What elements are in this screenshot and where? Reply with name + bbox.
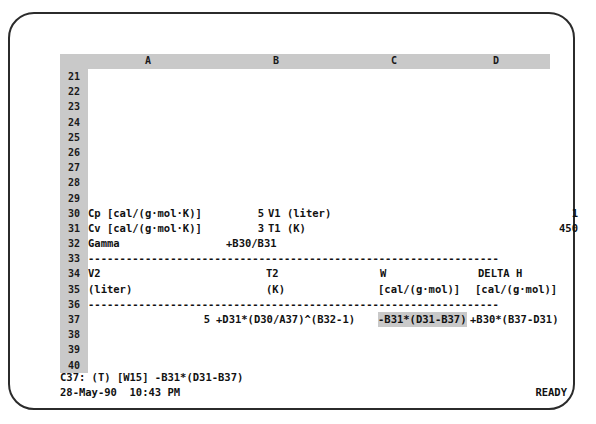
cell-B34[interactable]: T2	[266, 266, 279, 281]
grid-row[interactable]: 31Cv [cal/(g·mol·K)]3T1 (K)450	[60, 221, 550, 236]
grid-row[interactable]: 30Cp [cal/(g·mol·K)]5V1 (liter)1	[60, 206, 550, 221]
grid-row[interactable]: 38	[60, 327, 550, 342]
grid-row[interactable]: 25	[60, 130, 550, 145]
row-header-30[interactable]: 30	[60, 206, 88, 221]
row-header-37[interactable]: 37	[60, 312, 88, 327]
row-cells: (liter)(K)[cal/(g·mol)][cal/(g·mol)]	[88, 282, 550, 297]
row-header-23[interactable]: 23	[60, 99, 88, 114]
row-header-22[interactable]: 22	[60, 84, 88, 99]
grid-row[interactable]: 33--------------------------------------…	[60, 251, 550, 266]
separator-line: ----------------------------------------…	[88, 297, 550, 312]
row-cells	[88, 327, 550, 342]
row-header-34[interactable]: 34	[60, 266, 88, 281]
row-cells	[88, 145, 550, 160]
cell-C37[interactable]: -B31*(D31-B37)	[378, 312, 467, 327]
row-cells: Cp [cal/(g·mol·K)]5V1 (liter)1	[88, 206, 550, 221]
row-cells	[88, 69, 550, 84]
screen-frame: A B C D 21222324252627282930Cp [cal/(g·m…	[8, 12, 575, 410]
row-header-25[interactable]: 25	[60, 130, 88, 145]
row-cells	[88, 342, 550, 357]
cell-B35[interactable]: (K)	[266, 282, 285, 297]
row-cells	[88, 160, 550, 175]
row-cells: ----------------------------------------…	[88, 251, 550, 266]
column-header-bar: A B C D	[60, 54, 550, 69]
row-header-28[interactable]: 28	[60, 175, 88, 190]
cell-C35[interactable]: [cal/(g·mol)]	[378, 282, 460, 297]
column-header-c[interactable]: C	[384, 55, 404, 66]
row-header-32[interactable]: 32	[60, 236, 88, 251]
column-header-a[interactable]: A	[138, 55, 158, 66]
column-header-d[interactable]: D	[486, 55, 506, 66]
row-header-31[interactable]: 31	[60, 221, 88, 236]
cell-D37[interactable]: +B30*(B37-D31)	[470, 312, 559, 327]
grid-row[interactable]: 32Gamma+B30/B31	[60, 236, 550, 251]
grid-row[interactable]: 23	[60, 99, 550, 114]
row-header-35[interactable]: 35	[60, 282, 88, 297]
row-header-38[interactable]: 38	[60, 327, 88, 342]
row-header-21[interactable]: 21	[60, 69, 88, 84]
cell-B37[interactable]: +D31*(D30/A37)^(B32-1)	[216, 312, 355, 327]
cell-B31[interactable]: 3	[250, 221, 264, 236]
cell-A34[interactable]: V2	[88, 266, 101, 281]
cell-C34[interactable]: W	[380, 266, 386, 281]
cell-A32[interactable]: Gamma	[88, 236, 120, 251]
cell-A35[interactable]: (liter)	[88, 282, 132, 297]
row-cells	[88, 99, 550, 114]
row-cells: Gamma+B30/B31	[88, 236, 550, 251]
grid-row[interactable]: 28	[60, 175, 550, 190]
cell-A30[interactable]: Cp [cal/(g·mol·K)]	[88, 206, 202, 221]
status-area: C37: (T) [W15] -B31*(D31-B37) 28-May-90 …	[60, 370, 560, 400]
grid-row[interactable]: 24	[60, 115, 550, 130]
spreadsheet-grid[interactable]: A B C D 21222324252627282930Cp [cal/(g·m…	[60, 54, 550, 373]
cell-C30[interactable]: V1 (liter)	[268, 206, 331, 221]
cell-D30[interactable]: 1	[480, 206, 578, 221]
grid-row[interactable]: 39	[60, 342, 550, 357]
cell-A37[interactable]: 5	[180, 312, 210, 327]
row-cells	[88, 84, 550, 99]
cell-B32[interactable]: +B30/B31	[226, 236, 277, 251]
cell-B30[interactable]: 5	[250, 206, 264, 221]
status-line: 28-May-90 10:43 PM READY	[60, 385, 560, 400]
row-cells	[88, 130, 550, 145]
grid-row[interactable]: 21	[60, 69, 550, 84]
cell-D34[interactable]: DELTA H	[478, 266, 522, 281]
row-cells: ----------------------------------------…	[88, 297, 550, 312]
row-header-29[interactable]: 29	[60, 191, 88, 206]
cell-C31[interactable]: T1 (K)	[268, 221, 306, 236]
row-header-36[interactable]: 36	[60, 297, 88, 312]
cell-D35[interactable]: [cal/(g·mol)]	[475, 282, 557, 297]
row-header-33[interactable]: 33	[60, 251, 88, 266]
column-header-b[interactable]: B	[266, 55, 286, 66]
mode-indicator: READY	[535, 385, 567, 400]
grid-rows: 21222324252627282930Cp [cal/(g·mol·K)]5V…	[60, 69, 550, 373]
grid-row[interactable]: 34V2T2WDELTA H	[60, 266, 550, 281]
row-cells	[88, 115, 550, 130]
grid-row[interactable]: 375+D31*(D30/A37)^(B32-1)-B31*(D31-B37)+…	[60, 312, 550, 327]
grid-row[interactable]: 22	[60, 84, 550, 99]
grid-corner-cell	[60, 54, 88, 69]
row-cells: Cv [cal/(g·mol·K)]3T1 (K)450	[88, 221, 550, 236]
grid-row[interactable]: 27	[60, 160, 550, 175]
grid-row[interactable]: 35(liter)(K)[cal/(g·mol)][cal/(g·mol)]	[60, 282, 550, 297]
row-header-24[interactable]: 24	[60, 115, 88, 130]
cell-A31[interactable]: Cv [cal/(g·mol·K)]	[88, 221, 202, 236]
row-header-26[interactable]: 26	[60, 145, 88, 160]
row-cells: V2T2WDELTA H	[88, 266, 550, 281]
row-cells	[88, 175, 550, 190]
datetime-indicator: 28-May-90 10:43 PM	[60, 385, 180, 400]
row-cells: 5+D31*(D30/A37)^(B32-1)-B31*(D31-B37)+B3…	[88, 312, 550, 327]
grid-row[interactable]: 26	[60, 145, 550, 160]
separator-line: ----------------------------------------…	[88, 251, 550, 266]
grid-row[interactable]: 29	[60, 191, 550, 206]
row-header-39[interactable]: 39	[60, 342, 88, 357]
row-header-27[interactable]: 27	[60, 160, 88, 175]
grid-row[interactable]: 36--------------------------------------…	[60, 297, 550, 312]
cell-D31[interactable]: 450	[480, 221, 578, 236]
cell-reference-line: C37: (T) [W15] -B31*(D31-B37)	[60, 370, 560, 385]
row-cells	[88, 191, 550, 206]
